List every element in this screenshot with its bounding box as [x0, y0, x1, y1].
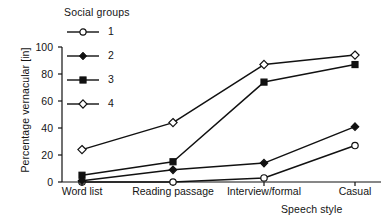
data-point: [352, 142, 358, 148]
data-point: [260, 159, 267, 166]
data-series-2: [78, 123, 358, 184]
data-series-1: [79, 142, 358, 185]
data-series-4: [78, 51, 359, 154]
data-point: [79, 172, 85, 178]
data-point: [78, 146, 86, 154]
data-point: [260, 60, 268, 68]
data-point: [351, 51, 359, 59]
series-line-2: [82, 127, 355, 181]
data-point: [261, 79, 267, 85]
data-point: [351, 123, 358, 130]
series-line-4: [82, 55, 355, 150]
data-point: [169, 166, 176, 173]
data-point: [261, 175, 267, 181]
data-series-3: [79, 62, 358, 179]
axis-lines: [62, 47, 381, 182]
data-point: [169, 119, 177, 127]
data-point: [170, 179, 176, 185]
data-point: [352, 62, 358, 68]
plot-area: [0, 0, 391, 224]
series-line-3: [82, 65, 355, 176]
data-point: [170, 159, 176, 165]
chart-figure: Social groups 1 2 3: [0, 0, 391, 224]
